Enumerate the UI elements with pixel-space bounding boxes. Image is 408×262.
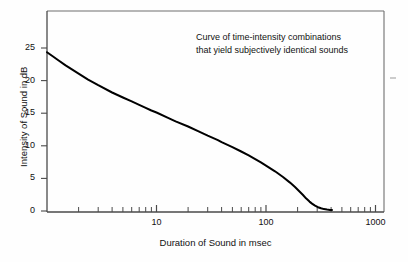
curve-description-annotation: Curve of time-intensity combinations tha… [196,31,348,57]
y-tick-label-0: 0 [13,206,35,215]
annotation-line-1: Curve of time-intensity combinations [196,31,348,44]
chart-figure: 25 20 15 10 5 0 10 100 1000 Intensity of… [0,0,408,262]
y-axis-title: Intensity of Sound in dB [19,47,29,187]
annotation-line-2: that yield subjectively identical sounds [196,44,348,57]
x-axis-title: Duration of Sound in msec [47,238,384,248]
x-tick-label-1000: 1000 [356,218,396,227]
x-tick-label-100: 100 [246,218,286,227]
x-tick-label-10: 10 [137,218,177,227]
